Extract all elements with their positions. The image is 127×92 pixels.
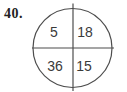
quadrant-value-top-right: 18 — [77, 25, 93, 39]
circle-quadrant-diagram — [0, 0, 127, 92]
quadrant-value-bottom-right: 15 — [76, 59, 92, 73]
quadrant-value-top-left: 5 — [50, 25, 58, 39]
worksheet-problem: 40. 5 18 36 15 — [0, 0, 127, 92]
quadrant-value-bottom-left: 36 — [47, 59, 63, 73]
